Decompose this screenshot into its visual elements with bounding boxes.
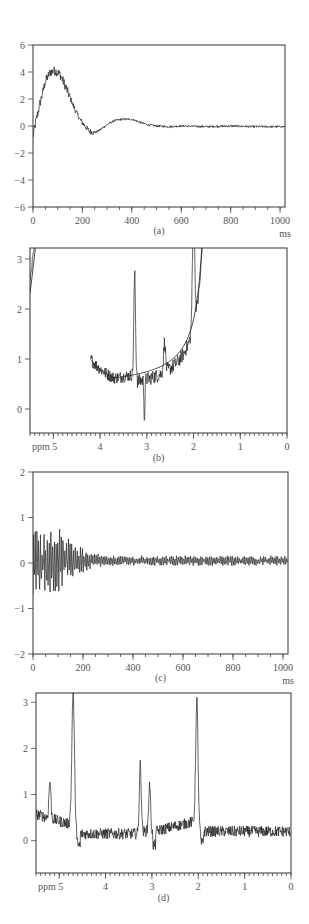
y-tick-label: −1 (14, 603, 25, 614)
x-tick-label: 200 (75, 215, 90, 226)
plot-frame (36, 693, 291, 873)
x-tick-label: 1 (242, 881, 247, 892)
x-tick-label: 3 (144, 441, 149, 452)
x-tick-label: 600 (176, 662, 191, 673)
y-tick-label: 2 (23, 743, 28, 754)
figure: −6−4−2024602004006008001000ms(a) 0123ppm… (0, 0, 309, 924)
x-axis-unit-label: ms (279, 228, 291, 239)
y-tick-label: 4 (20, 67, 25, 78)
y-tick-label: 0 (23, 835, 28, 846)
x-tick-label: ppm 5 (38, 881, 63, 892)
x-tick-label: 0 (31, 662, 36, 673)
y-tick-label: 3 (17, 254, 22, 265)
y-tick-label: 0 (20, 121, 25, 132)
y-tick-label: 2 (20, 467, 25, 478)
spectrum-trace (91, 0, 287, 420)
x-tick-label: 0 (31, 215, 36, 226)
panel-caption: (c) (155, 672, 166, 684)
plot-frame (30, 248, 287, 433)
x-tick-label: 1000 (273, 662, 293, 673)
y-tick-label: −6 (14, 202, 25, 213)
panel-c-residual-signal: −2−101202004006008001000ms(c) (14, 467, 294, 687)
x-tick-label: 600 (174, 215, 189, 226)
y-tick-label: 6 (20, 40, 25, 51)
y-tick-label: −2 (14, 649, 25, 660)
x-tick-label: 400 (124, 215, 139, 226)
corrected-spectrum-trace (36, 689, 291, 850)
y-tick-label: −2 (14, 148, 25, 159)
panel-a-time-signal: −6−4−2024602004006008001000ms(a) (14, 40, 291, 240)
panel-caption: (a) (153, 225, 164, 237)
x-tick-label: 1 (238, 441, 243, 452)
y-tick-label: 2 (17, 304, 22, 315)
x-tick-label: ppm 5 (32, 441, 57, 452)
x-tick-label: 400 (126, 662, 141, 673)
panel-d-corrected-spectrum: 0123ppm 543210(d) (23, 689, 294, 904)
signal-trace (33, 67, 285, 137)
panel-caption: (b) (153, 452, 165, 464)
baseline-fit-left-branch (30, 234, 37, 294)
x-tick-label: 4 (103, 881, 108, 892)
x-tick-label: 0 (285, 441, 290, 452)
y-tick-label: 0 (20, 558, 25, 569)
baseline-fit-curve (91, 0, 287, 378)
x-tick-label: 2 (196, 881, 201, 892)
y-tick-label: 1 (17, 354, 22, 365)
x-tick-label: 2 (191, 441, 196, 452)
x-tick-label: 800 (223, 215, 238, 226)
x-tick-label: 4 (98, 441, 103, 452)
spectrum-trace-left (30, 235, 36, 281)
x-tick-label: 200 (76, 662, 91, 673)
y-tick-label: 2 (20, 94, 25, 105)
x-tick-label: 3 (149, 881, 154, 892)
panel-caption: (d) (158, 892, 170, 904)
x-tick-label: 800 (226, 662, 241, 673)
residual-signal-trace (33, 529, 288, 595)
y-tick-label: 3 (23, 697, 28, 708)
y-tick-label: 0 (17, 404, 22, 415)
y-tick-label: 1 (23, 789, 28, 800)
x-tick-label: 1000 (270, 215, 290, 226)
x-axis-unit-label: ms (282, 675, 294, 686)
y-tick-label: −4 (14, 175, 25, 186)
y-tick-label: 1 (20, 512, 25, 523)
x-tick-label: 0 (289, 881, 294, 892)
